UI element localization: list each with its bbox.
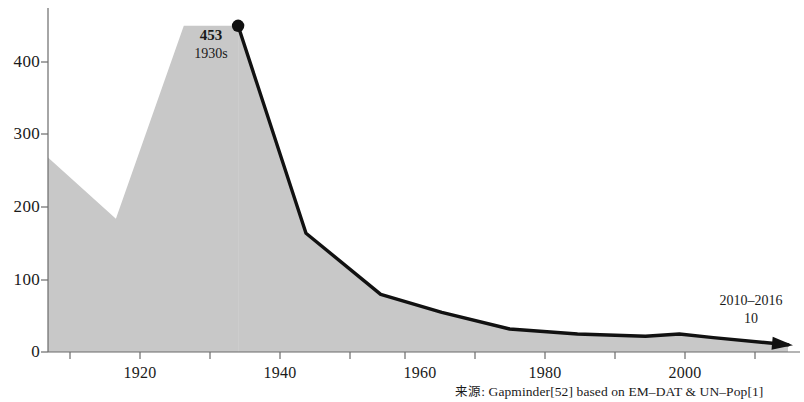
- chart-container: 400 300 200 100 0 1920 1940 1960 1980 20…: [0, 0, 804, 402]
- x-tick-label-1940: 1940: [250, 364, 310, 382]
- end-annotation: 2010–2016 10: [706, 292, 796, 327]
- peak-annotation-label: 1930s: [176, 45, 246, 63]
- end-annotation-value: 10: [706, 310, 796, 328]
- peak-annotation-value: 453: [176, 26, 246, 45]
- y-tick-label-200: 200: [0, 197, 40, 217]
- x-tick-label-2000: 2000: [655, 364, 715, 382]
- peak-annotation: 453 1930s: [176, 26, 246, 62]
- y-axis-ticks: [41, 62, 48, 352]
- source-text: : Gapminder[52] based on EM–DAT & UN–Pop…: [481, 384, 763, 399]
- y-tick-label-100: 100: [0, 270, 40, 290]
- source-prefix: 来源: [455, 384, 481, 399]
- x-tick-label-1980: 1980: [515, 364, 575, 382]
- x-axis-ticks: [70, 352, 755, 359]
- source-caption: 来源: Gapminder[52] based on EM–DAT & UN–P…: [455, 381, 763, 400]
- x-tick-label-1960: 1960: [390, 364, 450, 382]
- area-fill: [48, 26, 238, 352]
- end-annotation-label: 2010–2016: [706, 292, 796, 310]
- y-tick-label-0: 0: [0, 342, 40, 362]
- y-tick-label-400: 400: [0, 52, 40, 72]
- chart-plot-area: [0, 0, 804, 402]
- y-tick-label-300: 300: [0, 124, 40, 144]
- x-tick-label-1920: 1920: [110, 364, 170, 382]
